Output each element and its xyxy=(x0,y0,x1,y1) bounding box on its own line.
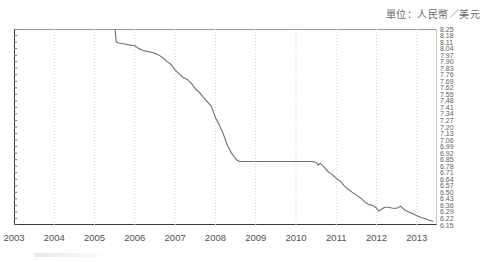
x-axis-label: 2006 xyxy=(124,232,145,244)
unit-caption: 單位：人民幣／美元 xyxy=(386,6,481,21)
x-axis-label: 2008 xyxy=(205,232,226,244)
y-axis-ticks xyxy=(14,29,17,225)
y-axis-label: 6.15 xyxy=(440,222,454,229)
page-edge-artifact xyxy=(34,253,104,257)
x-axis-label: 2010 xyxy=(285,232,306,244)
x-axis-label: 2012 xyxy=(366,232,387,244)
x-axis-label: 2009 xyxy=(245,232,266,244)
x-axis-labels: 2003200420052006200720082009201020112012… xyxy=(0,232,488,248)
exchange-rate-line-chart xyxy=(14,29,437,225)
x-axis-label: 2007 xyxy=(165,232,186,244)
x-axis-label: 2004 xyxy=(44,232,65,244)
x-axis-label: 2013 xyxy=(406,232,427,244)
x-axis-label: 2005 xyxy=(84,232,105,244)
x-axis-label: 2003 xyxy=(3,232,24,244)
y-axis-labels: 8.258.188.118.047.977.907.837.767.697.62… xyxy=(440,29,486,225)
gridlines xyxy=(54,29,417,225)
chart-plot-area xyxy=(14,29,437,225)
series-group xyxy=(14,29,433,221)
x-axis-label: 2011 xyxy=(326,232,346,244)
